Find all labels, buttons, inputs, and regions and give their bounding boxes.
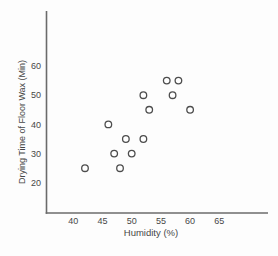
x-tick-label: 40 bbox=[68, 216, 78, 226]
x-tick-label: 65 bbox=[214, 216, 224, 226]
y-tick-label: 50 bbox=[31, 90, 41, 100]
data-point bbox=[105, 121, 112, 128]
scatter-figure: 2030405060 404550556065 Drying Time of F… bbox=[0, 0, 278, 256]
y-axis-title: Drying Time of Floor Wax (Min) bbox=[17, 60, 27, 184]
y-tick-label: 60 bbox=[31, 61, 41, 71]
x-tick-label: 45 bbox=[97, 216, 107, 226]
data-point bbox=[175, 77, 182, 84]
data-point bbox=[187, 107, 194, 114]
data-point bbox=[123, 136, 130, 143]
data-point bbox=[140, 92, 147, 99]
data-point bbox=[117, 165, 124, 172]
data-points bbox=[82, 77, 194, 171]
y-tick-label: 40 bbox=[31, 120, 41, 130]
y-tick-label: 20 bbox=[31, 178, 41, 188]
x-tick-label: 55 bbox=[156, 216, 166, 226]
y-tick-label: 30 bbox=[31, 149, 41, 159]
data-point bbox=[169, 92, 176, 99]
data-point bbox=[128, 150, 135, 157]
scatter-plot: 2030405060 404550556065 Drying Time of F… bbox=[0, 0, 278, 256]
data-point bbox=[140, 136, 147, 143]
data-point bbox=[163, 77, 170, 84]
y-tick-labels: 2030405060 bbox=[31, 61, 41, 188]
x-tick-label: 50 bbox=[127, 216, 137, 226]
x-tick-labels: 404550556065 bbox=[68, 216, 224, 226]
x-axis-title: Humidity (%) bbox=[124, 227, 178, 238]
data-point bbox=[82, 165, 89, 172]
x-tick-label: 60 bbox=[185, 216, 195, 226]
data-point bbox=[111, 150, 118, 157]
data-point bbox=[146, 107, 153, 114]
